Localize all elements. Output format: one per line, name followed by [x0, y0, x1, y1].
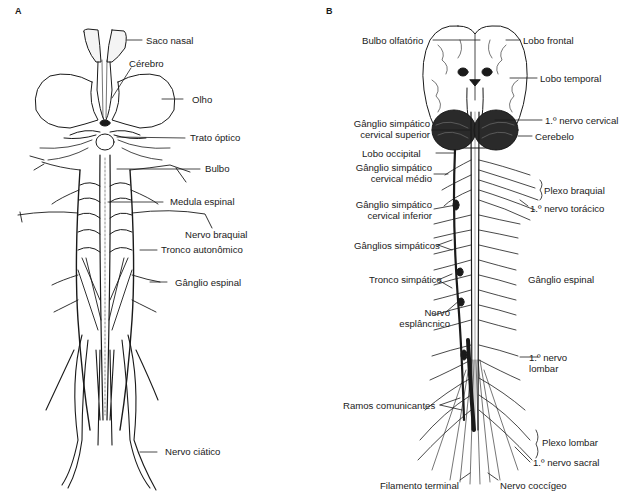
label-cerebro: Cérebro: [129, 58, 164, 69]
panel-a-vertebrate-nervous-system: A: [0, 0, 320, 500]
label-lobo-frontal: Lobo frontal: [523, 35, 574, 46]
label-nervo-braquial: Nervo braquial: [185, 229, 247, 240]
label-lobo-temporal: Lobo temporal: [540, 73, 601, 84]
label-ganglio-cervical-superior: Gânglio simpático cervical superior: [340, 118, 430, 140]
label-trato-optico: Trato óptico: [190, 132, 240, 143]
label-tronco-autonomico: Tronco autonômico: [161, 244, 243, 255]
nervous-system-illustration-a: [0, 0, 320, 500]
label-primeiro-nervo-lombar: 1.º nervo lombar: [529, 352, 567, 374]
label-ganglios-simpaticos: Gânglios simpáticos: [354, 240, 440, 251]
label-tronco-simpatico: Tronco simpático: [369, 274, 442, 285]
label-primeiro-nervo-toracico: 1.º nervo torácico: [530, 203, 604, 214]
label-bulbo-olfatorio: Bulbo olfatório: [362, 35, 423, 46]
label-plexo-braquial: Plexo braquial: [544, 185, 605, 196]
label-ganglio-cervical-medio: Gânglio simpático cervical médio: [340, 162, 432, 184]
label-ganglio-cervical-inferior: Gânglio simpático cervical inferior: [340, 199, 432, 221]
label-nervo-ciatico: Nervo ciático: [165, 446, 220, 457]
label-cerebelo: Cerebelo: [535, 131, 574, 142]
label-lobo-occipital: Lobo occipital: [362, 148, 421, 159]
label-primeiro-nervo-cervical: 1.º nervo cervical: [545, 115, 618, 126]
label-ganglio-espinal-a: Gânglio espinal: [175, 277, 241, 288]
label-nervo-coccigeo: Nervo coccígeo: [500, 480, 567, 491]
label-filamento-terminal: Filamento terminal: [380, 480, 459, 491]
label-saco-nasal: Saco nasal: [146, 35, 193, 46]
label-bulbo: Bulbo: [205, 163, 230, 174]
label-medula-espinal: Medula espinal: [170, 196, 235, 207]
panel-b-human-nervous-system: B: [320, 0, 641, 500]
label-plexo-lombar: Plexo lombar: [542, 437, 598, 448]
label-primeiro-nervo-sacral: 1.º nervo sacral: [533, 457, 599, 468]
label-ramos-comunicantes: Ramos comunicantes: [343, 400, 435, 411]
label-nervo-esplancnico: Nervo esplâncnico: [380, 307, 450, 329]
label-ganglio-espinal-b: Gânglio espinal: [528, 274, 594, 285]
label-olho: Olho: [192, 94, 212, 105]
